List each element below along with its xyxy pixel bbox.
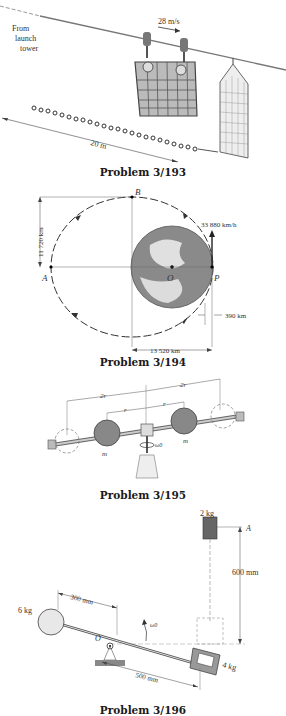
caption-problem-193: Problem 3/193: [0, 166, 286, 178]
label-height: 600 mm: [232, 568, 259, 577]
gondola-icon: [135, 32, 197, 116]
mass-4kg-icon: [190, 648, 220, 675]
lever-masses-diagram: 2 kg A 600 mm 6 kg 300 mm O ω0 4 kg 500 …: [0, 505, 286, 700]
caption-problem-194: Problem 3/194: [0, 356, 286, 368]
label-point-p: P: [213, 273, 220, 283]
label-mass-right: m: [183, 437, 188, 445]
label-from: From: [12, 24, 30, 33]
label-mass-left: m: [102, 450, 107, 458]
figure-problem-196: 2 kg A 600 mm 6 kg 300 mm O ω0 4 kg 500 …: [0, 505, 286, 700]
mass-left-icon: [94, 420, 120, 446]
caption-problem-196: Problem 3/196: [0, 704, 286, 716]
label-point-a: A: [41, 273, 48, 283]
support-base-icon: [136, 455, 158, 478]
label-velocity: 33 880 km/h: [201, 221, 237, 229]
label-tower: tower: [20, 44, 39, 53]
label-point-a: A: [245, 524, 251, 533]
label-top-mass: 2 kg: [200, 509, 214, 518]
label-outer-left: 2r: [100, 392, 107, 400]
label-left-length: 300 mm: [70, 593, 95, 606]
label-speed: 28 m/s: [158, 17, 180, 26]
net-icon: [220, 58, 248, 158]
label-launch: launch: [15, 34, 36, 43]
caption-problem-195: Problem 3/195: [0, 489, 286, 501]
rotating-masses-diagram: 2r 2r r r m m ω0: [0, 375, 286, 485]
label-inner-left: r: [124, 406, 127, 414]
label-inner-right: r: [163, 400, 166, 408]
orbit-diagram: B A O P 33 880 km/h 11 720 km 390 km 13 …: [0, 185, 286, 355]
figure-problem-194: B A O P 33 880 km/h 11 720 km 390 km 13 …: [0, 185, 286, 355]
label-omega: ω0: [155, 442, 162, 448]
label-pivot: O: [95, 634, 101, 643]
ground-icon: [95, 660, 125, 666]
figure-problem-195: 2r 2r r r m m ω0: [0, 375, 286, 485]
label-right-mass: 4 kg: [222, 660, 238, 672]
mass-right-icon: [171, 408, 197, 434]
label-left-mass: 6 kg: [18, 606, 32, 615]
label-major-dist: 13 520 km: [150, 347, 181, 355]
cable-car-diagram: From launch tower 28 m/s 20 m: [0, 0, 286, 170]
label-right-length: 500 mm: [135, 671, 160, 684]
label-omega: ω0: [150, 622, 157, 628]
mass-6kg-icon: [38, 609, 64, 635]
label-point-o: O: [167, 273, 174, 283]
label-outer-right: 2r: [180, 381, 187, 389]
label-point-b: B: [135, 187, 141, 197]
figure-problem-193: From launch tower 28 m/s 20 m: [0, 0, 286, 170]
mass-2kg-icon: [203, 517, 217, 539]
label-distance: 20 m: [90, 138, 109, 151]
label-minor-axis: 11 720 km: [37, 227, 45, 257]
label-altitude: 390 km: [225, 312, 247, 320]
